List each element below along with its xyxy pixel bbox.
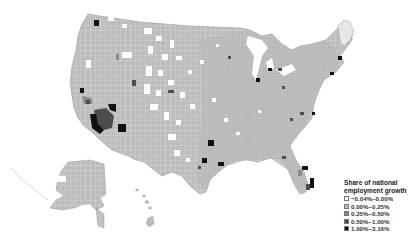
legend-label: 0.50%–1.00% (351, 218, 390, 225)
legend-label: 0.25%–0.50% (351, 210, 390, 217)
legend-swatch-5 (344, 226, 349, 231)
hawaii-shape (136, 189, 155, 227)
legend-swatch-3 (344, 211, 349, 216)
legend-swatch-1 (344, 196, 349, 201)
legend-title-line1: Share of national (344, 179, 419, 187)
legend-title: Share of national employment growth (344, 179, 419, 194)
maine-outline (338, 20, 354, 46)
contiguous-us (70, 14, 354, 194)
legend-swatch-2 (344, 204, 349, 209)
legend-item: −0.04%–0.00% (344, 195, 419, 202)
legend-item: 0.25%–0.50% (344, 210, 419, 217)
alaska-low-counties (56, 176, 66, 182)
map-legend: Share of national employment growth −0.0… (344, 179, 419, 232)
alaska-shape (50, 160, 106, 228)
legend-label: 1.00%–3.16% (351, 225, 390, 232)
legend-swatch-4 (344, 219, 349, 224)
legend-label: −0.04%–0.00% (351, 195, 393, 202)
legend-label: 0.00%–0.25% (351, 203, 390, 210)
legend-item: 0.00%–0.25% (344, 203, 419, 210)
eastern-counties (196, 30, 340, 194)
legend-item: 1.00%–3.16% (344, 225, 419, 232)
aleutian-islands (12, 168, 48, 200)
legend-item: 0.50%–1.00% (344, 217, 419, 224)
legend-title-line2: employment growth (344, 187, 419, 195)
